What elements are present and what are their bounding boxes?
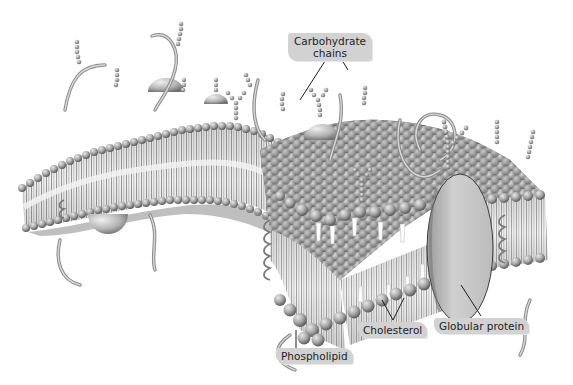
label-carbohydrate-line1: Carbohydrate (294, 35, 366, 47)
label-phospholipid-text: Phospholipid (281, 350, 348, 362)
label-globular-protein: Globular protein (434, 318, 529, 334)
label-cholesterol-text: Cholesterol (363, 324, 422, 336)
label-phospholipid: Phospholipid (276, 348, 353, 364)
label-carbohydrate-chains: Carbohydrate chains (288, 33, 372, 61)
globular-protein-large (427, 174, 493, 322)
label-carbohydrate-line2: chains (294, 47, 366, 59)
label-cholesterol: Cholesterol (358, 322, 427, 338)
right-bilayer-block (260, 120, 548, 350)
left-bilayer-band (18, 122, 300, 240)
label-globular-protein-text: Globular protein (439, 320, 524, 332)
